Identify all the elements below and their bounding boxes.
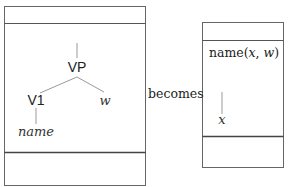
- vp-to-v1-edge: [40, 77, 77, 93]
- condition-sep: ,: [256, 45, 264, 60]
- condition-arg1: x: [249, 45, 256, 60]
- w-node: w: [96, 93, 114, 108]
- vp-to-w-edge: [77, 77, 104, 92]
- v1-node: V1: [22, 92, 50, 108]
- becomes-label: becomes: [148, 86, 204, 101]
- condition-close: ): [274, 45, 279, 60]
- condition-name-x-w: name(x, w): [206, 45, 282, 60]
- vp-node: VP: [63, 59, 91, 75]
- condition-pred: name(: [209, 45, 249, 60]
- name-leaf: name: [14, 124, 58, 139]
- x-node: x: [215, 112, 229, 127]
- condition-arg2: w: [264, 45, 275, 60]
